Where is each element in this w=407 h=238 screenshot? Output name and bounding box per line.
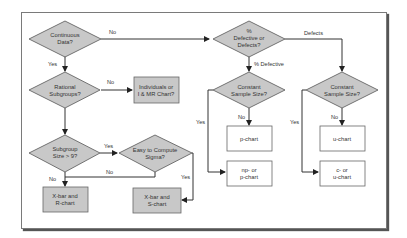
label-continuous-yes: Yes: [48, 61, 57, 67]
outcome-imr: [134, 77, 179, 103]
label-const-u-yes: Yes: [290, 119, 299, 125]
xs-text-1: X-bar and: [144, 194, 169, 200]
decision-const-u: [306, 72, 378, 108]
const-p-text-2: Sample Size?: [231, 91, 268, 97]
label-pct-defective: % Defective: [254, 61, 284, 67]
cu-text-1: c- or: [336, 167, 348, 173]
label-const-p-yes: Yes: [196, 119, 205, 125]
sigma-text-1: Easy to Compute: [133, 147, 177, 153]
subgroup-text-1: Subgroup: [52, 146, 77, 152]
xr-text-2: R-chart: [55, 200, 74, 206]
defective-text-2: Defective or: [234, 35, 265, 41]
defective-text-1: %: [246, 28, 251, 34]
label-subgroup-no: No: [49, 176, 56, 182]
const-u-text-1: Constant: [330, 84, 354, 90]
label-const-u-no: No: [331, 114, 338, 120]
p-text: p-chart: [240, 136, 258, 142]
imr-text-2: I & MR Chart?: [138, 91, 175, 97]
xs-text-2: S-chart: [148, 201, 167, 207]
np-text-1: np- or: [241, 167, 256, 173]
label-subgroup-yes: Yes: [104, 143, 113, 149]
flowchart: Continuous Data? Rational Subgroups? Sub…: [0, 0, 407, 238]
label-rational-no: No: [107, 79, 114, 85]
xr-text-1: X-bar and: [52, 193, 77, 199]
decision-rational: [29, 72, 100, 108]
imr-text-1: Individuals or: [139, 84, 173, 90]
cu-text-2: u-chart: [333, 174, 351, 180]
subgroup-text-2: Size > 9?: [53, 153, 78, 159]
np-text-2: p-chart: [240, 174, 258, 180]
continuous-text-2: Data?: [57, 39, 73, 45]
sigma-text-2: Sigma?: [145, 154, 165, 160]
rational-text-1: Rational: [54, 84, 75, 90]
const-p-text-1: Constant: [237, 84, 261, 90]
label-sigma-yes: Yes: [181, 174, 190, 180]
continuous-text-1: Continuous: [50, 32, 79, 38]
label-defects: Defects: [304, 30, 323, 36]
label-continuous-no: No: [109, 29, 116, 35]
rational-text-2: Subgroups?: [49, 91, 81, 97]
const-u-text-2: Sample Size?: [324, 91, 361, 97]
decision-const-p: [213, 72, 285, 108]
label-const-p-no: No: [238, 114, 245, 120]
label-sigma-no: No: [106, 169, 113, 175]
u-text: u-chart: [333, 136, 351, 142]
defective-text-3: Defects?: [238, 42, 262, 48]
